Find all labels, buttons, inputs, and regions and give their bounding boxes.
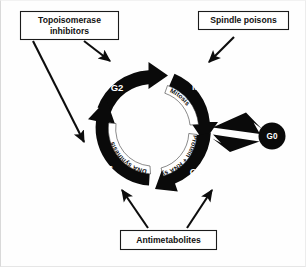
phase-letter-s: S [107,163,113,174]
callout-topoisomerase-inhibitors[interactable]: Topoisomerase inhibitors [21,12,119,40]
callout-antimetabolites[interactable]: Antimetabolites [121,231,217,250]
cell-cycle-diagram: G2 M G1 S Mitosis Protein + RNA synthesi… [0,0,306,267]
connector-topoisomerase-to-g2 [84,41,110,61]
callout-spindle-poisons[interactable]: Spindle poisons [199,12,289,30]
connector-antimetabolites-to-s [122,190,148,228]
figure-canvas: G2 M G1 S Mitosis Protein + RNA synthesi… [0,0,306,267]
g0-node: G0 [259,123,286,150]
callout-topoisomerase-line1: Topoisomerase [38,15,101,25]
connector-antimetabolites-to-g1 [187,190,212,228]
g0-label: G0 [267,132,278,141]
phase-letter-g2: G2 [111,82,124,93]
callout-spindle-poisons-label: Spindle poisons [210,15,277,25]
callout-topoisomerase-line2: inhibitors [50,26,89,36]
callout-antimetabolites-label: Antimetabolites [136,235,201,245]
connector-g1-to-g0 [213,113,263,153]
phase-letter-g1: G1 [190,166,203,177]
connector-spindle-poisons-to-m [209,37,234,62]
phase-letter-m: M [192,81,200,92]
connector-topoisomerase-to-s [33,41,84,142]
